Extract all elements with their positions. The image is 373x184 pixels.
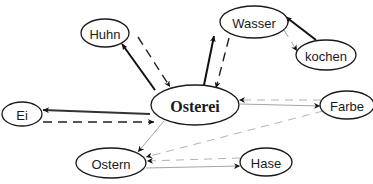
node-wasser-label: Wasser	[232, 16, 276, 31]
node-osterei[interactable]: Osterei	[151, 85, 239, 125]
edge-osterei-to-ei	[43, 110, 150, 114]
node-ostern[interactable]: Ostern	[76, 148, 146, 178]
node-farbe[interactable]: Farbe	[320, 91, 373, 119]
node-farbe-label: Farbe	[330, 99, 364, 114]
edge-huhn-to-osterei	[138, 37, 170, 87]
edge-osterei-to-ostern	[138, 121, 164, 152]
edge-osterei-to-wasser	[204, 36, 214, 85]
edge-wasser-to-kochen	[284, 30, 297, 51]
nodes-layer: Osterei Huhn Wasser kochen Ei Farbe Oste…	[2, 6, 373, 178]
edge-ostern-to-hase	[146, 166, 240, 168]
node-ei-label: Ei	[16, 108, 28, 123]
edge-wasser-to-osterei	[216, 38, 229, 88]
node-wasser[interactable]: Wasser	[220, 6, 288, 38]
node-kochen-label: kochen	[305, 49, 347, 64]
edge-osterei-to-huhn	[122, 44, 155, 90]
node-osterei-label: Osterei	[170, 98, 220, 115]
node-ostern-label: Ostern	[91, 157, 130, 172]
node-huhn[interactable]: Huhn	[81, 19, 129, 47]
node-hase-label: Hase	[251, 156, 281, 171]
node-huhn-label: Huhn	[89, 27, 120, 42]
edge-osterei-to-farbe	[240, 104, 320, 106]
edge-kochen-to-wasser	[286, 17, 316, 40]
node-kochen[interactable]: kochen	[296, 40, 356, 70]
node-hase[interactable]: Hase	[240, 148, 292, 176]
concept-graph: Osterei Huhn Wasser kochen Ei Farbe Oste…	[0, 0, 373, 184]
edge-hase-to-ostern	[147, 158, 240, 161]
node-ei[interactable]: Ei	[2, 102, 42, 126]
